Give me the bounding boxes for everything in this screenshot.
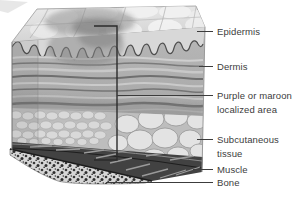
leader-line-epidermis bbox=[197, 31, 213, 32]
label-epidermis: Epidermis bbox=[217, 25, 301, 39]
leader-line-bone bbox=[106, 182, 213, 183]
label-bone: Bone bbox=[217, 176, 301, 190]
leader-line-dermis bbox=[199, 66, 213, 67]
corner-smudge bbox=[0, 0, 28, 13]
label-subcutaneous-tissue: Subcutaneous tissue bbox=[217, 133, 301, 161]
label-muscle: Muscle bbox=[217, 163, 301, 177]
skin-layers-diagram: Epidermis Dermis Purple or maroon locali… bbox=[0, 0, 301, 205]
label-localized-area: Purple or maroon localized area bbox=[217, 89, 301, 117]
label-dermis: Dermis bbox=[217, 60, 301, 74]
leader-line-localized-area bbox=[117, 95, 213, 96]
leader-line-muscle bbox=[193, 169, 213, 170]
leader-line-subcutaneous bbox=[197, 139, 213, 140]
